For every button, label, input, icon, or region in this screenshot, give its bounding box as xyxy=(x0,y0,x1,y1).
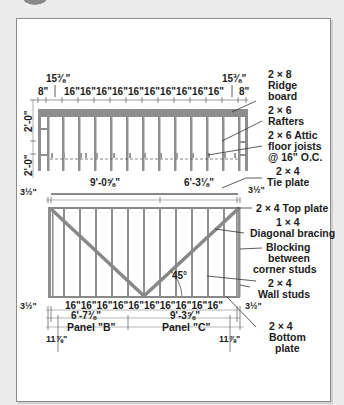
dim-tie-right-offset: 3½" xyxy=(248,185,265,195)
dim-bottom-left-offset: 3½" xyxy=(20,301,37,311)
wall-framing-diagram: 15⅜" 15⅜" 8" 8" 16"16"16"16"16"16"16"16"… xyxy=(0,0,344,405)
panel-c-label: Panel "C" xyxy=(162,321,210,333)
bracing-name-label: Diagonal bracing xyxy=(250,227,335,239)
dim-left-offset: 15⅜" xyxy=(46,73,70,84)
bottom-plate-name-label-2: plate xyxy=(275,342,300,354)
dim-left-end: 8" xyxy=(38,86,49,97)
dim-side-lower: 2'-0" xyxy=(23,154,34,176)
dim-right-offset: 15⅜" xyxy=(222,73,246,84)
dim-right-end: 8" xyxy=(239,86,250,97)
dim-left-end-stud: 11⅞" xyxy=(46,334,67,344)
wall-studs xyxy=(48,207,241,297)
dim-tie-right: 6'-3⅛" xyxy=(184,177,214,188)
tie-plate xyxy=(51,193,238,195)
rafter-name-label: Rafters xyxy=(268,115,304,127)
dim-panel-c-length: 9'-3⅝" xyxy=(170,310,200,321)
tie-plate-name-label: Tie plate xyxy=(267,176,310,188)
ridge-name-label-2: board xyxy=(268,90,297,102)
top-plate-label: 2 × 4 Top plate xyxy=(256,202,329,214)
dim-tie-left-offset: 3½" xyxy=(20,187,37,197)
dim-rafter-spacing: 16"16"16"16"16"16"16"16"16"16" xyxy=(64,86,224,97)
angle-label: 45° xyxy=(172,270,187,281)
panel-b-label: Panel "B" xyxy=(67,321,115,333)
dim-tie-left: 9'-0⅝" xyxy=(90,177,120,188)
top-plate xyxy=(48,207,240,209)
dim-bottom-right-offset: 3½" xyxy=(245,301,262,311)
joist-label-3: @ 16" O.C. xyxy=(268,151,322,163)
dim-side-upper: 2'-0" xyxy=(23,110,34,132)
rafters xyxy=(38,109,248,171)
studs-name-label: Wall studs xyxy=(258,288,310,300)
wall-framing: 2 × 4 Top plate 1 × 4 Diagonal bracing B… xyxy=(20,202,335,354)
dim-panel-b-length: 6'-7⅜" xyxy=(71,310,101,321)
dim-right-end-stud: 11⅞" xyxy=(219,334,240,344)
blocking-label-3: corner studs xyxy=(253,263,317,275)
